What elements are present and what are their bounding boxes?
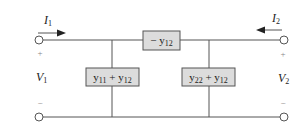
terminal-right-bottom (280, 113, 288, 121)
arrow-left-icon (256, 27, 265, 34)
v2-minus: − (280, 98, 285, 108)
terminal-left-top (35, 36, 43, 44)
current-label-i2: I2 (271, 11, 280, 26)
wires (43, 40, 280, 117)
current-label-i1: I1 (43, 13, 52, 28)
v1-minus: − (37, 98, 42, 108)
voltage-label-v2: V2 (278, 71, 289, 86)
voltage-label-v1: V1 (36, 70, 47, 85)
arrow-right-icon (57, 30, 66, 37)
terminal-left-bottom (35, 113, 43, 121)
current-arrow-i2 (256, 27, 282, 34)
v2-plus: + (280, 49, 285, 59)
terminal-right-top (280, 36, 288, 44)
v1-plus: + (37, 48, 42, 58)
circuit-diagram: − y12 y11 + y12 y22 + y12 I1 I2 + V1 − +… (0, 0, 297, 127)
current-arrow-i1 (38, 30, 66, 37)
